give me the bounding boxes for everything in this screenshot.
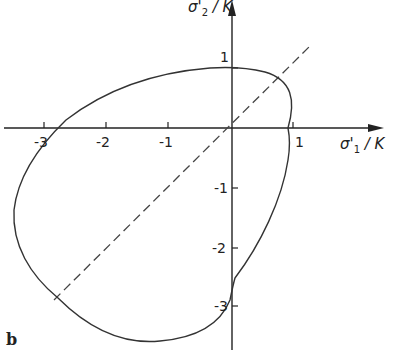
x-tick-label: -3 <box>34 135 48 149</box>
x-tick-label: -2 <box>96 135 110 149</box>
y-axis-title: σ'2 / K <box>188 0 232 18</box>
yield-curve <box>14 67 292 341</box>
y-axis <box>228 0 238 350</box>
x-tick-label: 1 <box>295 135 304 149</box>
stress-diagram <box>0 0 394 350</box>
diagonal-dashed-line <box>54 46 310 300</box>
y-tick-label: -1 <box>214 181 228 195</box>
x-axis-arrow-icon <box>368 124 384 132</box>
x-axis <box>4 122 384 132</box>
x-axis-title: σ'1 / K <box>340 137 384 155</box>
y-tick-label: -2 <box>212 241 226 255</box>
x-tick-label: -1 <box>159 135 173 149</box>
panel-label: b <box>6 332 17 348</box>
y-tick-label: -3 <box>214 299 228 313</box>
y-tick-label: 1 <box>220 50 229 64</box>
